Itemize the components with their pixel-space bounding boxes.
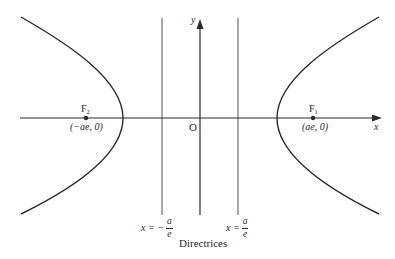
directrix-right-denominator: e bbox=[243, 229, 247, 240]
focus-f2-label: F2 bbox=[81, 104, 90, 116]
directrix-right-numerator: a bbox=[242, 217, 249, 229]
directrix-left-equation: x = − a e bbox=[141, 217, 173, 239]
directrix-right-lhs: x = bbox=[226, 223, 240, 233]
focus-f1-coords: (ae, 0) bbox=[302, 122, 328, 132]
focus-f2-dot bbox=[84, 116, 88, 120]
focus-f1-subscript: 1 bbox=[315, 108, 318, 115]
directrix-left-numerator: a bbox=[166, 217, 173, 229]
focus-f2-subscript: 2 bbox=[87, 108, 90, 115]
directrix-left-fraction: a e bbox=[166, 217, 173, 239]
directrices-caption: Directrices bbox=[179, 238, 227, 249]
directrix-right-fraction: a e bbox=[242, 217, 249, 239]
directrix-left-denominator: e bbox=[167, 229, 171, 240]
origin-label: O bbox=[189, 122, 197, 133]
focus-f2-coords: (−ae, 0) bbox=[70, 122, 103, 132]
focus-f1-dot bbox=[311, 116, 315, 120]
y-axis-label: y bbox=[191, 15, 195, 25]
x-axis-label: x bbox=[374, 122, 378, 132]
y-axis-arrow-icon bbox=[197, 19, 204, 29]
hyperbola-right-branch bbox=[277, 17, 379, 214]
focus-f1-label: F1 bbox=[309, 104, 318, 116]
directrix-left-lhs: x = − bbox=[141, 223, 164, 233]
hyperbola-left-branch bbox=[21, 17, 123, 214]
hyperbola-diagram bbox=[0, 0, 395, 259]
directrix-right-equation: x = a e bbox=[226, 217, 248, 239]
